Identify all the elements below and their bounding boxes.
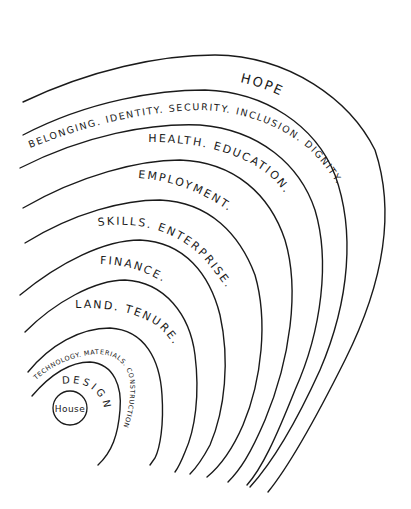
arc-layer-hope [23,55,385,492]
concentric-layers-diagram: House HOPE BELONGING. IDENTITY. SECURITY… [0,0,411,509]
house-core-label: House [55,404,86,414]
arc-layer-skills [25,200,262,477]
label-health: HEALTH. EDUCATION. [148,132,294,196]
label-hope: HOPE [239,70,286,99]
arc-layer-belonging [23,90,347,487]
label-skills: SKILLS. ENTERPRISE. [97,215,235,291]
label-land: LAND. TENURE. [75,298,183,348]
label-employment: EMPLOYMENT. [138,168,236,214]
